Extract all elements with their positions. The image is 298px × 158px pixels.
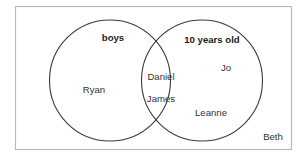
member-james: James — [147, 93, 175, 104]
set-label-boys: boys — [102, 32, 124, 43]
set-label-ten-years-old: 10 years old — [184, 34, 240, 45]
member-beth: Beth — [263, 131, 283, 142]
member-jo: Jo — [221, 62, 231, 73]
venn-diagram-canvas: boys 10 years old Ryan Daniel James Jo L… — [0, 0, 298, 158]
member-leanne: Leanne — [195, 107, 227, 118]
venn-diagram-svg: boys 10 years old Ryan Daniel James Jo L… — [0, 0, 298, 158]
member-ryan: Ryan — [83, 84, 105, 95]
member-daniel: Daniel — [147, 71, 174, 82]
